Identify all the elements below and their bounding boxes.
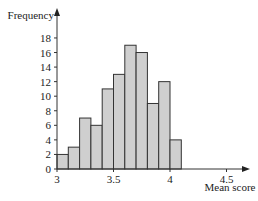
y-tick-label: 0 — [46, 163, 52, 175]
y-tick-label: 12 — [40, 76, 51, 88]
x-tick-label: 3 — [54, 173, 60, 185]
bars-group — [57, 45, 181, 169]
histogram-bar — [102, 89, 113, 169]
y-tick-label: 4 — [46, 134, 52, 146]
y-axis-arrow-icon — [54, 8, 60, 16]
histogram-bar — [159, 82, 170, 169]
histogram-bar — [147, 103, 158, 169]
y-tick-label: 16 — [40, 47, 52, 59]
histogram-bar — [170, 140, 181, 169]
y-tick-label: 10 — [40, 90, 52, 102]
y-tick-label: 8 — [46, 105, 52, 117]
y-tick-label: 6 — [46, 119, 52, 131]
histogram-bar — [68, 147, 79, 169]
y-axis-ticks: 024681012141618 — [40, 32, 57, 175]
y-tick-label: 2 — [46, 148, 52, 160]
x-tick-label: 4 — [167, 173, 173, 185]
x-tick-label: 3.5 — [107, 173, 121, 185]
x-axis-arrow-icon — [242, 166, 250, 172]
histogram-bar — [136, 53, 147, 169]
histogram-bar — [80, 118, 91, 169]
histogram-bar — [57, 154, 68, 169]
y-tick-label: 18 — [40, 32, 52, 44]
y-axis-title: Frequency — [8, 9, 55, 21]
histogram-chart: 024681012141618 33.544.5 Frequency Mean … — [0, 0, 258, 201]
histogram-bar — [91, 125, 102, 169]
x-axis-title: Mean score — [204, 181, 255, 193]
histogram-bar — [114, 74, 125, 169]
histogram-bar — [125, 45, 136, 169]
y-tick-label: 14 — [40, 61, 52, 73]
